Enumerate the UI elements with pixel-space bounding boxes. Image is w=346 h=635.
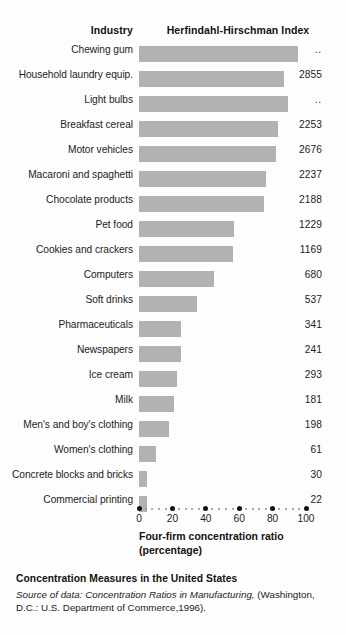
row-category-label: Women's clothing: [0, 444, 133, 455]
chart-figure: Industry Herfindahl-Hirschman Index Chew…: [0, 0, 346, 635]
row-hhi-value: 2237: [262, 169, 322, 180]
row-category-label: Concrete blocks and bricks: [0, 469, 133, 480]
bar: [139, 146, 276, 162]
row-hhi-value: 30: [262, 469, 322, 480]
axis-tick-dot: [137, 506, 142, 511]
axis-tick-dot: [170, 506, 175, 511]
column-header-hhi: Herfindahl-Hirschman Index: [152, 24, 324, 36]
axis-minor-dot: [151, 508, 153, 510]
row-category-label: Motor vehicles: [0, 144, 133, 155]
chart-row: Women's clothing61: [0, 443, 346, 468]
chart-row: Household laundry equip.2855: [0, 68, 346, 93]
chart-row: Milk181: [0, 393, 346, 418]
row-category-label: Light bulbs: [0, 94, 133, 105]
chart-row: Light bulbs..: [0, 93, 346, 118]
bar: [139, 396, 174, 412]
row-hhi-value: 198: [262, 419, 322, 430]
figure-footer: Concentration Measures in the United Sta…: [16, 573, 334, 614]
chart-row: Chocolate products2188: [0, 193, 346, 218]
bar: [139, 471, 147, 487]
row-category-label: Newspapers: [0, 344, 133, 355]
row-category-label: Soft drinks: [0, 294, 133, 305]
bar: [139, 371, 177, 387]
row-category-label: Milk: [0, 394, 133, 405]
x-axis-title-line2: (percentage): [139, 544, 339, 558]
chart-row: Ice cream293: [0, 368, 346, 393]
axis-minor-dot: [185, 508, 187, 510]
row-hhi-value: 293: [262, 369, 322, 380]
row-category-label: Pet food: [0, 219, 133, 230]
chart-row: Motor vehicles2676: [0, 143, 346, 168]
row-hhi-value: 2855: [262, 69, 322, 80]
chart-row: Newspapers241: [0, 343, 346, 368]
axis-minor-dot: [225, 508, 227, 510]
axis-minor-dot: [165, 508, 167, 510]
x-axis-title: Four-firm concentration ratio(percentage…: [139, 530, 339, 557]
chart-row: Cookies and crackers1169: [0, 243, 346, 268]
bar: [139, 421, 169, 437]
bar: [139, 171, 266, 187]
bar: [139, 221, 234, 237]
axis-minor-dot: [278, 508, 280, 510]
axis-minor-dot: [191, 508, 193, 510]
chart-row: Pet food1229: [0, 218, 346, 243]
figure-title: Concentration Measures in the United Sta…: [16, 573, 334, 584]
figure-source: Source of data: Concentration Ratios in …: [16, 588, 334, 614]
row-hhi-value: 181: [262, 394, 322, 405]
bar: [139, 346, 181, 362]
row-hhi-value: 241: [262, 344, 322, 355]
row-hhi-value: 680: [262, 269, 322, 280]
axis-minor-dot: [258, 508, 260, 510]
chart-row: Concrete blocks and bricks30: [0, 468, 346, 493]
row-category-label: Chewing gum: [0, 44, 133, 55]
x-axis-title-line1: Four-firm concentration ratio: [139, 530, 339, 544]
bar: [139, 446, 156, 462]
row-category-label: Commercial printing: [0, 494, 133, 505]
axis-minor-dot: [198, 508, 200, 510]
row-category-label: Breakfast cereal: [0, 119, 133, 130]
chart-row: Soft drinks537: [0, 293, 346, 318]
bar: [139, 271, 214, 287]
bar-rows: Chewing gum..Household laundry equip.285…: [0, 43, 346, 518]
axis-minor-dot: [292, 508, 294, 510]
axis-minor-dot: [145, 508, 147, 510]
axis-tick-dot: [237, 506, 242, 511]
row-hhi-value: 1229: [262, 219, 322, 230]
source-prefix: Source of data:: [16, 589, 82, 600]
row-hhi-value: 537: [262, 294, 322, 305]
row-category-label: Men's and boy's clothing: [0, 419, 133, 430]
axis-tick-dot: [270, 506, 275, 511]
row-hhi-value: 1169: [262, 244, 322, 255]
source-publication: Concentration Ratios in Manufacturing,: [85, 589, 254, 600]
row-category-label: Computers: [0, 269, 133, 280]
row-hhi-value: 61: [262, 444, 322, 455]
chart-row: Chewing gum..: [0, 43, 346, 68]
axis-minor-dot: [211, 508, 213, 510]
chart-row: Computers680: [0, 268, 346, 293]
row-category-label: Pharmaceuticals: [0, 319, 133, 330]
column-header-industry: Industry: [0, 24, 133, 36]
row-category-label: Household laundry equip.: [0, 69, 133, 80]
axis-minor-dot: [265, 508, 267, 510]
bar: [139, 121, 278, 137]
row-category-label: Ice cream: [0, 369, 133, 380]
axis-minor-dot: [232, 508, 234, 510]
row-category-label: Chocolate products: [0, 194, 133, 205]
chart-row: Men's and boy's clothing198: [0, 418, 346, 443]
axis-minor-dot: [252, 508, 254, 510]
row-hhi-value: ..: [262, 44, 322, 55]
axis-tick-label: 100: [286, 513, 326, 524]
bar: [139, 296, 197, 312]
row-hhi-value: ..: [262, 94, 322, 105]
bar: [139, 196, 264, 212]
axis-minor-dot: [298, 508, 300, 510]
bar: [139, 321, 181, 337]
row-hhi-value: 2188: [262, 194, 322, 205]
chart-row: Pharmaceuticals341: [0, 318, 346, 343]
row-hhi-value: 2676: [262, 144, 322, 155]
axis-minor-dot: [285, 508, 287, 510]
row-category-label: Macaroni and spaghetti: [0, 169, 133, 180]
x-axis-tick-labels: 020406080100: [139, 513, 311, 527]
axis-minor-dot: [158, 508, 160, 510]
row-hhi-value: 22: [262, 494, 322, 505]
